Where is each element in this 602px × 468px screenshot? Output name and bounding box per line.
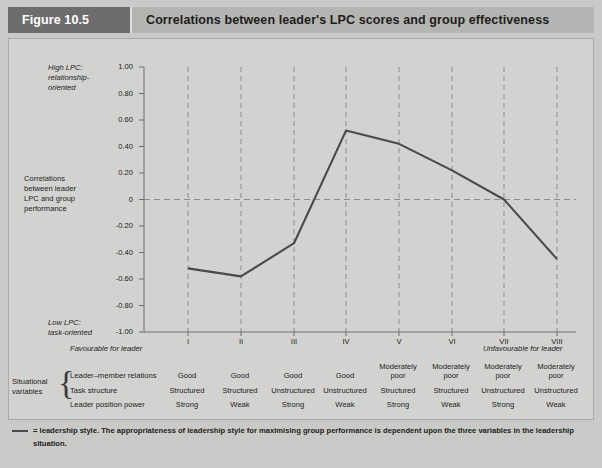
- table-cell-line: Unstructured: [475, 386, 531, 395]
- table-cell: Strong: [265, 400, 321, 409]
- table-row-label: Task structure: [70, 386, 117, 395]
- table-cell-line: Unstructured: [528, 386, 584, 395]
- y-axis-title-line3: LPC and group: [24, 194, 110, 204]
- x-tick-label-II: II: [221, 337, 261, 347]
- table-cell-line: Unstructured: [317, 386, 373, 395]
- table-cell-line: poor: [475, 371, 531, 380]
- chart-gridlines: [188, 67, 557, 332]
- high-lpc-note-line1: High LPC:: [48, 63, 83, 73]
- figure-number-badge: Figure 10.5: [8, 7, 130, 33]
- x-axis-right-note: Unfavourable for leader: [483, 344, 562, 354]
- table-cell-line: Good: [159, 371, 215, 380]
- table-cell: Weak: [212, 400, 268, 409]
- table-cell: Structured: [159, 386, 215, 395]
- table-cell: Weak: [528, 400, 584, 409]
- y-tick-label: 0.40: [99, 142, 133, 151]
- table-row-label: Leader–member relations: [70, 371, 157, 380]
- table-cell-line: Structured: [159, 386, 215, 395]
- table-cell-line: Structured: [370, 386, 426, 395]
- table-cell-line: Good: [317, 371, 373, 380]
- table-cell: Moderatelypoor: [423, 362, 479, 381]
- situational-variables-label-line2: variables: [12, 387, 58, 397]
- table-cell-line: Moderately: [475, 362, 531, 371]
- x-tick-label-III: III: [274, 337, 314, 347]
- low-lpc-note-line2: task-oriented: [48, 328, 92, 338]
- table-cell-line: Weak: [528, 400, 584, 409]
- situational-variables-label-line1: Situational: [12, 377, 58, 387]
- table-cell: Weak: [317, 400, 373, 409]
- table-cell-line: Weak: [317, 400, 373, 409]
- table-cell-line: Structured: [423, 386, 479, 395]
- table-cell: Good: [265, 371, 321, 380]
- chart-x-ticks: [188, 332, 557, 336]
- table-cell: Strong: [370, 400, 426, 409]
- table-cell-line: Structured: [212, 386, 268, 395]
- table-cell: Structured: [212, 386, 268, 395]
- y-tick-label: 0.80: [99, 89, 133, 98]
- y-axis-title-line1: Correlations: [24, 174, 110, 184]
- table-cell-line: Good: [265, 371, 321, 380]
- y-axis-title-line4: performance: [24, 204, 110, 214]
- low-lpc-note-line1: Low LPC:: [48, 318, 81, 328]
- y-tick-label: -0.20: [99, 221, 133, 230]
- table-cell: Structured: [370, 386, 426, 395]
- table-cell-line: Strong: [265, 400, 321, 409]
- high-lpc-note-line2: relationship-: [48, 73, 89, 83]
- table-cell: Unstructured: [317, 386, 373, 395]
- table-row-label: Leader position power: [70, 400, 145, 409]
- table-cell-line: Weak: [423, 400, 479, 409]
- table-cell: Good: [317, 371, 373, 380]
- table-cell: Structured: [423, 386, 479, 395]
- table-cell-line: Moderately: [423, 362, 479, 371]
- figure-title: Correlations between leader's LPC scores…: [130, 7, 594, 33]
- table-cell: Strong: [475, 400, 531, 409]
- table-cell: Good: [212, 371, 268, 380]
- table-cell: Good: [159, 371, 215, 380]
- x-tick-label-V: V: [379, 337, 419, 347]
- table-cell-line: poor: [528, 371, 584, 380]
- x-axis-left-note: Favourable for leader: [70, 344, 142, 354]
- table-cell-line: Strong: [370, 400, 426, 409]
- table-cell-line: Strong: [159, 400, 215, 409]
- y-tick-label: -1.00: [99, 327, 133, 336]
- figure-root: Figure 10.5 Correlations between leader'…: [0, 0, 602, 468]
- table-cell: Moderatelypoor: [475, 362, 531, 381]
- figure-header: Figure 10.5 Correlations between leader'…: [8, 7, 594, 33]
- table-cell: Unstructured: [475, 386, 531, 395]
- y-tick-label: 0.60: [99, 115, 133, 124]
- chart-data-line: [188, 131, 557, 277]
- y-tick-label: -0.40: [99, 248, 133, 257]
- y-tick-label: -0.80: [99, 301, 133, 310]
- x-tick-label-VI: VI: [432, 337, 472, 347]
- table-cell-line: Moderately: [528, 362, 584, 371]
- table-cell-line: poor: [423, 371, 479, 380]
- high-lpc-note-line3: oriented: [48, 83, 75, 93]
- table-cell-line: Weak: [212, 400, 268, 409]
- y-tick-label: 1.00: [99, 62, 133, 71]
- footnote-text: = leadership style. The appropriateness …: [33, 425, 589, 450]
- table-cell: Unstructured: [528, 386, 584, 395]
- table-cell-line: Moderately: [370, 362, 426, 371]
- table-cell: Moderatelypoor: [528, 362, 584, 381]
- legend-line-icon: [12, 430, 28, 432]
- table-cell: Unstructured: [265, 386, 321, 395]
- y-tick-label: -0.60: [99, 274, 133, 283]
- table-cell: Strong: [159, 400, 215, 409]
- x-tick-label-I: I: [168, 337, 208, 347]
- table-cell-line: Unstructured: [265, 386, 321, 395]
- table-cell: Moderatelypoor: [370, 362, 426, 381]
- table-cell-line: Strong: [475, 400, 531, 409]
- table-cell: Weak: [423, 400, 479, 409]
- chart-y-ticks: [139, 67, 144, 332]
- y-axis-title-line2: between leader: [24, 184, 110, 194]
- x-tick-label-IV: IV: [326, 337, 366, 347]
- situational-variables-label: Situational variables: [12, 377, 58, 396]
- table-cell-line: poor: [370, 371, 426, 380]
- table-cell-line: Good: [212, 371, 268, 380]
